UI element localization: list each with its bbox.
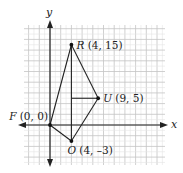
y-axis-label: y xyxy=(45,6,53,19)
point-label-r: R (4, 15) xyxy=(75,39,122,51)
point-f xyxy=(48,123,52,127)
x-axis-arrow-left xyxy=(18,122,26,128)
x-axis-arrow-right xyxy=(160,122,168,128)
point-r xyxy=(70,43,74,47)
point-o xyxy=(70,139,74,143)
x-axis-label: x xyxy=(171,118,178,131)
point-label-u: U (9, 5) xyxy=(103,92,143,104)
y-axis-arrow-up xyxy=(47,20,53,28)
point-u xyxy=(96,96,100,100)
y-axis-arrow-down xyxy=(47,159,53,167)
coordinate-diagram: F (0, 0)R (4, 15)U (9, 5)O (4, –3) x y xyxy=(0,0,183,173)
point-label-f: F (0, 0) xyxy=(8,110,48,122)
point-label-o: O (4, –3) xyxy=(67,144,112,156)
